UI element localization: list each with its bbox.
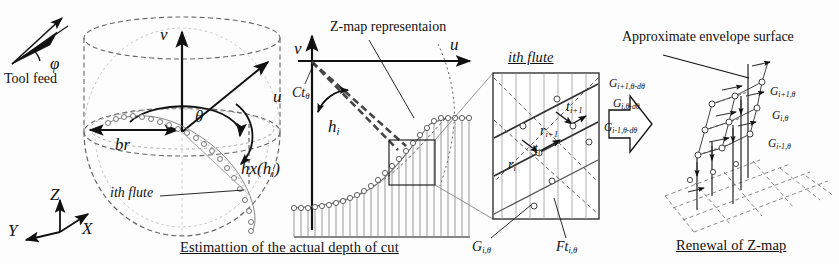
g-i-plus-1-theta-minus-dtheta-label: Gi+1,θ-dθ (609, 78, 645, 91)
g-i-minus-1-theta-minus-dtheta-label: Gi-1,θ-dθ (604, 122, 637, 135)
ith-flute-inset-group (491, 73, 599, 238)
t-i-label: ti (534, 142, 540, 157)
approximate-envelope-surface-label: Approximate envelope surface (622, 30, 794, 44)
ith-flute-inset-title: ith flute (508, 50, 554, 65)
ft-i-theta-label: Fti,θ (556, 240, 577, 255)
middle-v-axis-label: v (294, 40, 302, 57)
theta-angle-label: θ (195, 108, 203, 125)
world-axis-triad (26, 200, 88, 240)
br-radius-label: br (115, 136, 130, 153)
ith-flute-label: ith flute (110, 186, 153, 200)
t-i-plus-1-label: ti+1 (566, 100, 583, 115)
g-i-theta-label: Gi,θ (472, 240, 491, 255)
figure-root: φ Tool feed v u θ br ith flute hx(hi) Z … (0, 0, 839, 264)
g-i-minus-1-theta-label: Gi-1,θ (768, 138, 791, 151)
middle-u-axis-label: u (450, 36, 459, 53)
tool-feed-label: Tool feed (4, 72, 57, 86)
zmap-renewal-group (663, 55, 834, 232)
r-i-plus-1-label: ri+1 (540, 124, 558, 139)
v-axis-label: v (160, 26, 168, 43)
tool-feed-arrow-group (12, 18, 68, 64)
axis-z-label: Z (50, 186, 59, 203)
g-i-theta-minus-dtheta-label: Gi,θ-dθ (613, 98, 640, 111)
zmap-plot-group (291, 36, 493, 237)
flute-helix-group (106, 114, 255, 234)
u-axis-label: u (273, 88, 282, 105)
axis-y-label: Y (8, 222, 17, 239)
h-i-label: hi (328, 118, 339, 137)
hx-depth-label: hx(hi) (241, 160, 280, 179)
zmap-representation-label: Z-map representaion (330, 20, 446, 34)
axis-x-label: X (82, 220, 92, 237)
caption-left: Estimattion of the actual depth of cut (180, 240, 399, 255)
ct-theta-label: Ctθ (292, 86, 310, 101)
g-i-plus-1-theta-label: Gi+1,θ (770, 86, 795, 99)
caption-right: Renewal of Z-map (676, 238, 786, 253)
g-i-theta-right-label: Gi,θ (772, 110, 788, 123)
r-i-label: ri (508, 158, 516, 173)
phi-angle-label: φ (50, 55, 59, 72)
